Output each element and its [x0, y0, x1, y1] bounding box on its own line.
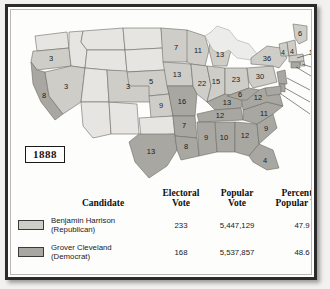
vote-label-illinois: 22 — [198, 80, 206, 88]
vote-label-nevada: 3 — [64, 83, 68, 91]
vote-label-california: 8 — [42, 92, 46, 100]
figure-inner-frame: .st{stroke:#6d6b66;stroke-width:.6;} .re… — [10, 9, 312, 275]
vote-label-nebraska: 5 — [149, 78, 153, 86]
state-maryland — [265, 86, 281, 96]
electoral-vote-harrison: 233 — [155, 212, 207, 239]
state-new-mexico — [109, 102, 139, 134]
legend-swatch-cell-republican — [11, 212, 51, 239]
header-electoral-vote-line2: Vote — [172, 198, 190, 208]
header-percent-line1: Percent of — [281, 188, 312, 198]
election-map-figure: .st{stroke:#6d6b66;stroke-width:.6;} .re… — [5, 4, 317, 280]
vote-label-north-carolina: 11 — [260, 110, 268, 118]
header-percent-line2: Popular Vote — [276, 198, 312, 208]
header-popular-vote-line1: Popular — [221, 188, 254, 198]
legend-swatch-democrat — [18, 247, 44, 257]
electoral-vote-cleveland: 168 — [155, 239, 207, 266]
popular-vote-harrison: 5,447,129 — [207, 212, 267, 239]
candidate-name-line1: Grover Cleveland — [51, 243, 112, 252]
vote-label-michigan: 13 — [216, 51, 224, 59]
vote-label-oregon: 3 — [49, 55, 53, 63]
candidate-name-line1: Benjamin Harrison — [51, 216, 115, 225]
vote-label-new-york: 36 — [263, 55, 271, 63]
vote-label-florida: 4 — [263, 157, 267, 165]
state-oklahoma — [139, 116, 175, 136]
percent-harrison: 47.9 — [267, 212, 312, 239]
vote-label-minnesota: 7 — [174, 44, 178, 52]
vote-label-indiana: 15 — [212, 78, 220, 86]
candidate-party-line2: (Democrat) — [51, 252, 90, 261]
electoral-map: .st{stroke:#6d6b66;stroke-width:.6;} .re… — [11, 10, 312, 188]
state-arizona — [81, 102, 111, 138]
vote-label-texas: 13 — [147, 148, 155, 156]
header-electoral-vote-line1: Electoral — [163, 188, 200, 198]
legend-swatch-republican — [18, 220, 44, 230]
vote-label-iowa: 13 — [173, 71, 181, 79]
table-row: Grover Cleveland (Democrat) 168 5,537,85… — [11, 239, 312, 266]
vote-label-mississippi: 9 — [204, 134, 208, 142]
leader-line-connecticut — [296, 67, 311, 76]
candidate-name-cleveland: Grover Cleveland (Democrat) — [51, 239, 155, 266]
table-row: Benjamin Harrison (Republican) 233 5,447… — [11, 212, 312, 239]
state-utah — [81, 68, 109, 102]
vote-label-wisconsin: 11 — [194, 47, 202, 55]
header-popular-vote: Popular Vote — [207, 188, 267, 212]
state-connecticut — [291, 62, 300, 68]
header-swatch — [11, 188, 51, 212]
vote-label-louisiana: 8 — [184, 143, 188, 151]
vote-label-new-hampshire: 4 — [290, 48, 294, 55]
state-new-jersey — [277, 70, 287, 84]
vote-label-kentucky: 13 — [223, 99, 231, 107]
vote-label-pennsylvania: 30 — [256, 73, 264, 81]
vote-label-tennessee: 12 — [216, 112, 224, 120]
leader-line-maryland — [281, 94, 310, 114]
results-table-container: Candidate Electoral Vote Popular Vote Pe… — [11, 188, 312, 275]
leader-line-delaware — [285, 88, 310, 102]
leader-line-new-jersey — [287, 78, 310, 90]
header-percent-popular-vote: Percent of Popular Vote — [267, 188, 312, 212]
vote-label-kansas: 9 — [159, 102, 163, 110]
vote-label-virginia: 12 — [254, 94, 262, 102]
state-rhode-island — [300, 61, 305, 66]
popular-vote-cleveland: 5,537,857 — [207, 239, 267, 266]
candidate-party-line2: (Republican) — [51, 225, 95, 234]
year-badge: 1888 — [25, 146, 65, 163]
results-table: Candidate Electoral Vote Popular Vote Pe… — [11, 188, 312, 266]
table-header-row: Candidate Electoral Vote Popular Vote Pe… — [11, 188, 312, 212]
vote-label-massachusetts: 14 — [309, 49, 312, 57]
vote-label-arkansas: 7 — [182, 122, 186, 130]
header-electoral-vote: Electoral Vote — [155, 188, 207, 212]
state-washington — [35, 32, 69, 51]
legend-swatch-cell-democrat — [11, 239, 51, 266]
state-south-dakota — [125, 48, 165, 72]
state-north-dakota — [123, 28, 163, 50]
vote-label-west-virginia: 6 — [238, 91, 242, 99]
vote-label-alabama: 10 — [220, 134, 228, 142]
vote-label-south-carolina: 9 — [264, 125, 268, 133]
vote-label-missouri: 16 — [178, 98, 186, 106]
header-candidate: Candidate — [51, 188, 155, 212]
state-montana — [81, 28, 125, 50]
percent-cleveland: 48.6 — [267, 239, 312, 266]
vote-label-georgia: 12 — [241, 132, 249, 140]
header-popular-vote-line2: Vote — [228, 198, 246, 208]
vote-label-colorado: 3 — [126, 83, 130, 91]
vote-label-ohio: 23 — [232, 76, 240, 84]
vote-label-maine: 6 — [298, 30, 302, 38]
candidate-name-harrison: Benjamin Harrison (Republican) — [51, 212, 155, 239]
vote-label-vermont: 4 — [281, 49, 285, 56]
